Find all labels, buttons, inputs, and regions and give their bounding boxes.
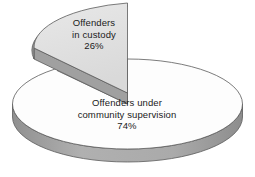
pie-chart: Offenders in custody 26% Offenders under… xyxy=(0,0,255,177)
pie-chart-graphic xyxy=(0,0,255,177)
